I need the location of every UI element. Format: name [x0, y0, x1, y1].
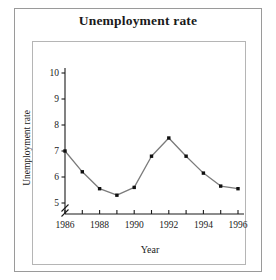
x-axis-title: Year — [64, 244, 236, 255]
plot-area-border — [32, 41, 246, 265]
y-axis-tick-label: 7 — [33, 146, 59, 156]
chart-title: Unemployment rate — [14, 13, 262, 29]
x-axis-tick-label: 1988 — [90, 220, 109, 230]
y-axis-tick-label: 10 — [33, 68, 59, 78]
x-axis-tick-label: 1990 — [125, 220, 144, 230]
x-axis-tick-label: 1992 — [159, 220, 178, 230]
y-axis-tick-label: 9 — [33, 94, 59, 104]
y-axis-tick-label: 8 — [33, 120, 59, 130]
x-axis-tick-label: 1996 — [229, 220, 248, 230]
chart-figure: Unemployment rate 5678910 19861988199019… — [0, 0, 276, 280]
y-axis-title: Unemployment rate — [22, 110, 32, 186]
y-axis-tick-label: 6 — [33, 172, 59, 182]
y-axis-tick-label: 5 — [33, 198, 59, 208]
x-axis-tick-label: 1986 — [56, 220, 75, 230]
x-axis-tick-label: 1994 — [194, 220, 213, 230]
